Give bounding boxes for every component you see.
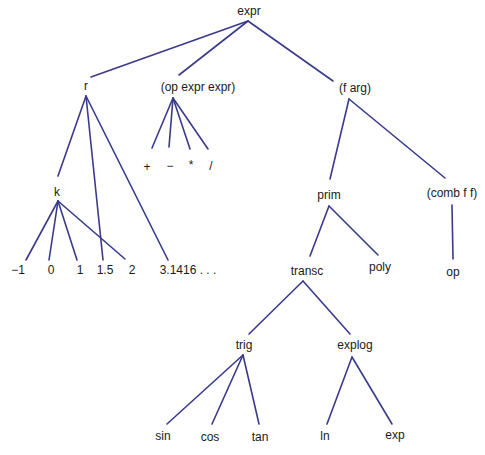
edge-r-to-k — [58, 96, 86, 176]
node-opee: (op expr expr) — [161, 81, 236, 93]
edge-expr-to-farg — [248, 21, 333, 81]
node-farg: (f arg) — [339, 82, 371, 94]
node-n_pi: 3.1416 . . . — [160, 264, 217, 276]
edge-expr-to-opee — [179, 21, 248, 75]
edge-explog-to-ln — [327, 357, 352, 424]
node-cos: cos — [201, 431, 220, 443]
node-div: / — [209, 160, 212, 172]
node-exp: exp — [385, 429, 404, 441]
edge-farg-to-prim — [330, 99, 349, 179]
node-expr: expr — [237, 5, 260, 17]
node-tan: tan — [252, 431, 269, 443]
edge-expr-to-r — [91, 21, 248, 77]
edge-transc-to-trig — [249, 281, 303, 334]
node-trig: trig — [236, 339, 253, 351]
node-comb: (comb f f) — [427, 187, 478, 199]
edge-opee-to-/ — [173, 98, 208, 149]
edge-opee-to-* — [173, 98, 190, 149]
edge-comb-to-op — [452, 205, 453, 259]
edge-trig-to-sin — [167, 355, 243, 424]
edge-trig-to-cos — [212, 355, 243, 424]
node-n_1: 1 — [77, 264, 84, 276]
edge-trig-to-tan — [243, 355, 259, 424]
node-times: * — [189, 159, 194, 171]
edge-transc-to-explog — [303, 281, 350, 334]
node-poly: poly — [369, 261, 391, 273]
node-op: op — [446, 266, 459, 278]
node-k: k — [54, 186, 60, 198]
node-r: r — [84, 80, 88, 92]
node-prim: prim — [317, 189, 340, 201]
node-n_2: 2 — [129, 264, 136, 276]
edge-prim-to-transc — [310, 206, 329, 256]
tree-diagram — [0, 0, 485, 455]
node-minus: − — [166, 160, 173, 172]
edge-prim-to-poly — [329, 206, 378, 255]
node-plus: + — [143, 161, 150, 173]
edge-explog-to-exp — [352, 357, 392, 424]
node-n_1_5: 1.5 — [97, 264, 114, 276]
node-n_m1: −1 — [11, 264, 25, 276]
node-explog: explog — [337, 339, 372, 351]
node-sin: sin — [155, 430, 170, 442]
node-transc: transc — [291, 265, 324, 277]
node-ln: ln — [320, 430, 329, 442]
edge-farg-to-comb — [349, 99, 445, 178]
node-n_0: 0 — [48, 264, 55, 276]
edge-r-to-1.5 — [86, 96, 103, 260]
